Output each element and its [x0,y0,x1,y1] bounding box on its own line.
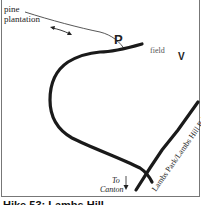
field-label: field [150,46,165,56]
viewpoint-label: V [178,52,185,62]
canton-label: Canton [100,185,124,195]
pine-plantation-label: pine plantation [4,4,54,24]
parking-label: P [114,35,123,45]
direction-arrow-icon [50,26,72,35]
main-trail [50,44,152,182]
arrow-down-icon [124,176,129,190]
map-caption: Hike 53: Lambs Hill [3,199,104,205]
